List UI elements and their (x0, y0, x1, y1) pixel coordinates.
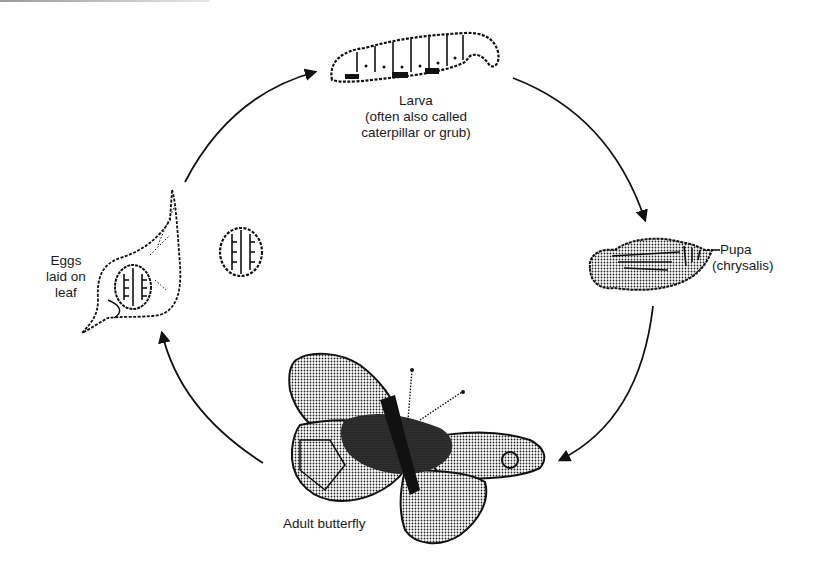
pupa-title: Pupa (720, 242, 774, 258)
eggs-label: Eggs laid on leaf (30, 253, 102, 301)
larva-title: Larva (330, 93, 502, 109)
eggs-line3: leaf (30, 285, 102, 301)
life-cycle-diagram (0, 0, 816, 578)
caterpillar-illustration (331, 33, 498, 82)
eggs-line2: laid on (30, 269, 102, 285)
pupa-label: Pupa (chrysalis) (720, 242, 774, 274)
larva-subtitle-line1: (often also called (330, 109, 502, 125)
arrow-eggs-to-larva (185, 72, 315, 182)
butterfly-illustration (289, 354, 544, 544)
larva-label: Larva (often also called caterpillar or … (330, 93, 502, 141)
pupa-subtitle: (chrysalis) (712, 258, 774, 274)
adult-butterfly-label: Adult butterfly (283, 516, 366, 532)
arrow-adult-to-eggs (162, 333, 263, 463)
egg-illustration (220, 228, 262, 276)
arrow-larva-to-pupa (513, 78, 645, 220)
eggs-line1: Eggs (30, 253, 102, 269)
adult-title: Adult butterfly (283, 516, 366, 532)
arrow-pupa-to-adult (560, 306, 653, 460)
chrysalis-illustration (590, 239, 720, 290)
larva-subtitle-line2: caterpillar or grub) (330, 125, 502, 141)
